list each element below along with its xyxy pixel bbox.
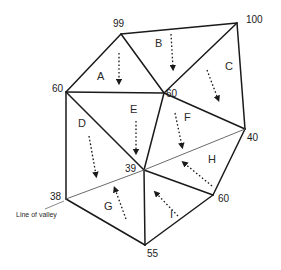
flow-arrows (89, 34, 218, 219)
edge-100-60b (164, 23, 237, 93)
face-label-d: D (78, 117, 86, 129)
face-label-b: B (155, 37, 162, 49)
tin-flow-diagram: 99 100 60 60 40 39 38 60 55 A B C D E F … (0, 0, 281, 270)
edge-100-40 (237, 23, 245, 129)
flow-arrow-c (207, 70, 218, 99)
valley-annotation-text: Line of valley (16, 211, 57, 219)
face-label-g: G (104, 200, 113, 212)
flow-arrow-f (175, 113, 182, 146)
face-label-c: C (225, 60, 233, 72)
edge-99-60a (66, 34, 121, 92)
elevation-label-60-left: 60 (52, 83, 64, 94)
valley-pointer-line (45, 201, 64, 209)
elevation-label-40: 40 (247, 132, 259, 143)
elevation-labels: 99 100 60 60 40 39 38 60 55 (50, 14, 263, 259)
flow-arrow-i (156, 193, 178, 216)
flow-arrow-g (115, 189, 126, 219)
elevation-label-39: 39 (125, 163, 137, 174)
edge-39-60c (144, 170, 213, 195)
face-label-a: A (97, 70, 105, 82)
edge-40-60c (213, 129, 245, 195)
face-label-f: F (184, 111, 191, 123)
edge-60a-60b (66, 92, 164, 93)
valley-segment-39-40 (144, 129, 245, 170)
elevation-label-38: 38 (50, 191, 62, 202)
elevation-label-60-bottom-right: 60 (218, 193, 230, 204)
valley-segment-38-39 (66, 170, 144, 199)
flow-arrow-d (89, 136, 96, 175)
edge-39-55 (144, 170, 145, 245)
elevation-label-60-center: 60 (166, 88, 178, 99)
edge-99-100 (121, 23, 237, 34)
face-label-i: I (170, 208, 173, 220)
valley-line (66, 129, 245, 199)
edge-60b-39 (144, 93, 164, 170)
face-label-e: E (130, 103, 137, 115)
elevation-label-100: 100 (246, 14, 263, 25)
valley-annotation: Line of valley (16, 201, 64, 219)
flow-arrow-b (171, 34, 173, 68)
elevation-label-55: 55 (147, 248, 159, 259)
elevation-label-99: 99 (113, 18, 125, 29)
triangle-edges (66, 23, 245, 245)
edge-60c-55 (145, 195, 213, 245)
face-label-h: H (208, 153, 216, 165)
flow-arrow-h (184, 163, 212, 186)
